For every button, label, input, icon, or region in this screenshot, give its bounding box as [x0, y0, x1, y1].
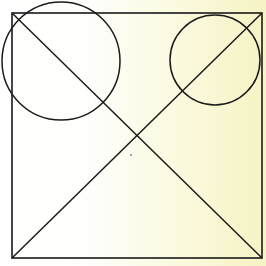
center-dot [130, 154, 132, 156]
diagram-canvas [0, 0, 266, 266]
square-with-diagonals-and-circles [0, 0, 266, 266]
